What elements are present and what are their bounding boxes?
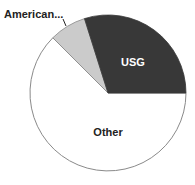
pie-chart: USG Other American... (0, 0, 195, 185)
label-usg: USG (121, 56, 145, 68)
label-american: American... (4, 8, 63, 20)
label-other: Other (93, 126, 123, 138)
leader-line-american (63, 19, 66, 26)
